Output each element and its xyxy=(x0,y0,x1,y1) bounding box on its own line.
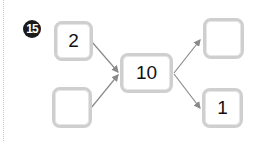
left-top-box: 2 xyxy=(54,21,93,61)
arrow-left-top-to-center xyxy=(92,42,118,72)
center-value: 10 xyxy=(136,62,157,84)
arrow-left-bottom-to-center xyxy=(91,75,118,108)
right-bottom-value: 1 xyxy=(217,97,228,119)
right-top-answer-box[interactable] xyxy=(203,18,244,59)
center-box: 10 xyxy=(120,53,173,93)
arrow-center-to-right-top xyxy=(174,40,200,73)
left-bottom-answer-box[interactable] xyxy=(52,87,92,128)
arrow-center-to-right-bottom xyxy=(174,74,200,108)
left-top-value: 2 xyxy=(68,30,79,52)
right-bottom-box: 1 xyxy=(202,88,243,128)
